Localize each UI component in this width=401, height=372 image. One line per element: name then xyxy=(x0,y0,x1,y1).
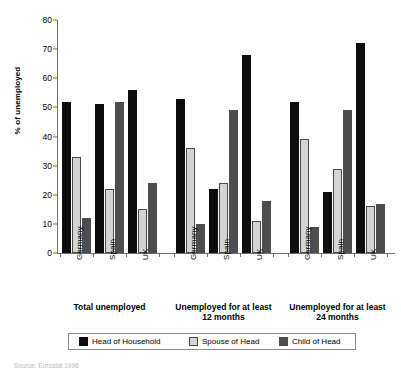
x-axis-tick-mark xyxy=(60,253,61,257)
y-axis-tick-label: 0 xyxy=(26,249,52,258)
y-axis-tick-label: 50 xyxy=(26,103,52,112)
plot-bars xyxy=(58,20,395,253)
y-axis-title: % of unemployed xyxy=(13,41,22,161)
y-axis-tick-label: 40 xyxy=(26,132,52,141)
legend-item-label: Child of Head xyxy=(292,337,340,346)
x-axis-tick-mark xyxy=(93,253,94,257)
y-axis-tick-label: 60 xyxy=(26,74,52,83)
x-axis-category-label: Germany xyxy=(303,226,312,260)
bar-chart: % of unemployed 01020304050607080 German… xyxy=(0,0,401,372)
y-axis-tick-label: 70 xyxy=(26,45,52,54)
legend-item: Child of Head xyxy=(279,337,340,346)
legend-swatch-icon xyxy=(79,337,88,346)
y-axis-tick-labels: 01020304050607080 xyxy=(24,0,52,372)
y-axis-tick-label: 10 xyxy=(26,220,52,229)
x-axis-category-label: Germany xyxy=(75,226,84,260)
legend-item: Spouse of Head xyxy=(189,337,259,346)
x-axis-category-label: Germany xyxy=(189,226,198,260)
bar xyxy=(366,206,375,253)
x-axis-tick-mark xyxy=(174,253,175,257)
y-axis-tick-label: 20 xyxy=(26,191,52,200)
bar xyxy=(376,204,385,254)
x-axis-tick-mark xyxy=(159,253,160,257)
bar xyxy=(262,201,271,253)
x-axis-tick-mark xyxy=(126,253,127,257)
x-axis-category-label: Spain xyxy=(336,239,345,260)
bar xyxy=(128,90,137,253)
bar xyxy=(290,102,299,253)
legend-item-label: Head of Household xyxy=(92,337,161,346)
bar xyxy=(148,183,157,253)
legend-item-label: Spouse of Head xyxy=(202,337,259,346)
bar xyxy=(356,43,365,253)
chart-legend: Head of HouseholdSpouse of HeadChild of … xyxy=(68,333,356,350)
bar xyxy=(62,102,71,253)
x-axis-group-label: Unemployed for at least 24 months xyxy=(278,302,397,322)
bar xyxy=(176,99,185,253)
x-axis-category-label: UK xyxy=(255,249,264,260)
bar xyxy=(115,102,124,253)
x-axis-tick-mark xyxy=(240,253,241,257)
bar xyxy=(323,192,332,253)
legend-swatch-icon xyxy=(189,337,198,346)
bar xyxy=(343,110,352,253)
x-axis-category-label: Spain xyxy=(222,239,231,260)
y-axis-tick-label: 80 xyxy=(26,16,52,25)
source-note: Source: Eurostat 1996 xyxy=(14,362,79,369)
x-axis-tick-mark xyxy=(207,253,208,257)
x-axis-category-label: Spain xyxy=(108,239,117,260)
x-axis-category-label: UK xyxy=(141,249,150,260)
x-axis-group-label: Unemployed for at least 12 months xyxy=(164,302,283,322)
bar xyxy=(138,209,147,253)
bar xyxy=(209,189,218,253)
bar xyxy=(95,104,104,253)
x-axis-group-label: Total unemployed xyxy=(50,302,169,312)
bar xyxy=(242,55,251,253)
x-axis-tick-mark xyxy=(354,253,355,257)
x-axis-tick-mark xyxy=(288,253,289,257)
x-axis-category-label: UK xyxy=(369,249,378,260)
x-axis-tick-mark xyxy=(273,253,274,257)
x-axis-tick-mark xyxy=(387,253,388,257)
y-axis-tick-label: 30 xyxy=(26,161,52,170)
bar xyxy=(229,110,238,253)
x-axis-tick-mark xyxy=(321,253,322,257)
legend-swatch-icon xyxy=(279,337,288,346)
legend-item: Head of Household xyxy=(79,337,161,346)
